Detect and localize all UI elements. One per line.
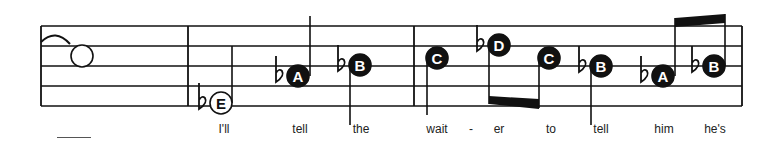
lyric-syllable: I'll xyxy=(219,122,230,136)
note-letter: B xyxy=(709,58,720,75)
flat-icon xyxy=(579,46,586,72)
note-letter: C xyxy=(544,50,555,67)
note-letter: A xyxy=(293,68,304,85)
lyric-syllable: tell xyxy=(593,122,608,136)
lyric-syllable: he's xyxy=(704,122,726,136)
beam-d-c xyxy=(489,96,539,109)
flat-icon xyxy=(276,56,283,82)
beam-a-b xyxy=(675,14,725,27)
lyric-syllable: to xyxy=(546,122,556,136)
lyric-syllable: er xyxy=(494,122,505,136)
lyric-syllable: him xyxy=(654,122,673,136)
flat-icon xyxy=(338,45,345,71)
note-letter: A xyxy=(658,68,669,85)
note-letter: B xyxy=(355,57,366,74)
flat-icon xyxy=(199,83,206,109)
tie-arc xyxy=(41,35,70,44)
lyric-syllable: tell xyxy=(292,122,307,136)
flat-icon xyxy=(692,46,699,72)
note-letter: B xyxy=(596,58,607,75)
flat-icon xyxy=(477,25,484,51)
note-letter: E xyxy=(216,95,226,112)
note-letter: D xyxy=(494,37,505,54)
note-letter: C xyxy=(432,50,443,67)
lyric-extender-line xyxy=(57,137,91,138)
lyric-syllable: the xyxy=(353,122,370,136)
lyric-hyphen: - xyxy=(469,122,473,136)
flat-icon xyxy=(641,56,648,82)
lyric-syllable: wait xyxy=(426,122,447,136)
notehead-open xyxy=(71,45,93,67)
